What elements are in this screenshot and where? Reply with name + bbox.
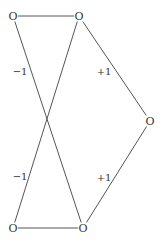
- graph-diagram: [0, 0, 162, 242]
- edge-label-lower-right: +1: [97, 173, 112, 183]
- edge-label-upper-right: +1: [97, 67, 112, 77]
- edge-label-upper-left: −1: [13, 67, 28, 77]
- edge-topleft-to-bottommiddle: [13, 16, 83, 228]
- edge-label-lower-left: −1: [13, 172, 28, 182]
- edge-topmiddle-to-bottomleft: [13, 16, 79, 228]
- node-right: O: [145, 116, 155, 127]
- node-bottom-middle: O: [78, 223, 88, 234]
- node-bottom-left: O: [8, 223, 18, 234]
- node-top-left: O: [8, 11, 18, 22]
- edge-topmiddle-to-right: [79, 16, 150, 121]
- edge-right-to-bottommiddle: [83, 121, 150, 228]
- node-top-middle: O: [74, 11, 84, 22]
